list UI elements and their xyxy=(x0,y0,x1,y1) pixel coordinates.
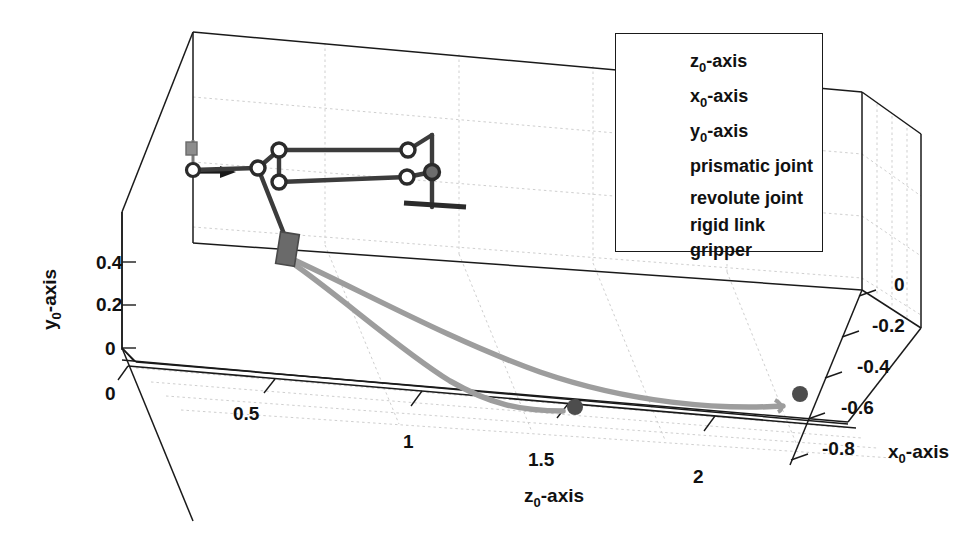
legend-item-y0-axis: y0-axis xyxy=(616,119,822,147)
legend-label-y0-axis: y0-axis xyxy=(690,122,748,144)
x-axis-title: x0-axis xyxy=(888,442,949,465)
legend-label-gripper: gripper xyxy=(690,241,752,259)
revolute-joint-d xyxy=(401,143,415,157)
legend-item-prismatic-joint: prismatic joint xyxy=(616,152,822,180)
rigid-links xyxy=(193,135,432,244)
trajectory-curve-2 xyxy=(292,259,783,407)
legend: z0-axis x0-axis y0-axis prismatic joint … xyxy=(615,33,823,252)
legend-item-z0-axis: z0-axis xyxy=(616,49,822,77)
z-tick-label-1-5: 1.5 xyxy=(528,450,554,469)
x-tick-label-neg-0-2: -0.2 xyxy=(872,316,905,335)
legend-label-rigid-link: rigid link xyxy=(690,216,765,234)
prismatic-joint xyxy=(186,142,197,155)
revolute-joint-b xyxy=(272,143,286,157)
y-tick-label-0-4: 0.4 xyxy=(96,253,122,272)
x-tick-label-neg-0-4: -0.4 xyxy=(857,357,890,376)
z-axis-title: z0-axis xyxy=(524,486,584,509)
z-tick-label-1: 1 xyxy=(403,432,414,451)
x-tick-label-0: 0 xyxy=(894,275,905,294)
trajectory-curves xyxy=(291,259,783,411)
y-tick-label-0-2: 0.2 xyxy=(96,295,122,314)
legend-item-rigid-link: rigid link xyxy=(616,211,822,239)
revolute-joint-base xyxy=(187,164,200,177)
z-tick-label-0: 0 xyxy=(105,384,116,403)
gripper xyxy=(276,232,300,267)
revolute-joint-a xyxy=(251,161,265,175)
z-tick-label-0-5: 0.5 xyxy=(233,404,259,423)
trajectory-curve-1 xyxy=(291,262,563,411)
z-tick-label-2: 2 xyxy=(693,467,704,486)
revolute-joint-e xyxy=(400,170,414,184)
legend-label-prismatic-joint: prismatic joint xyxy=(690,157,813,175)
figure-3d-manipulator-plot: z0-axis x0-axis y0-axis prismatic joint … xyxy=(0,0,960,546)
legend-item-x0-axis: x0-axis xyxy=(616,84,822,112)
z-axis-ticks xyxy=(118,366,715,431)
x-tick-label-neg-0-8: -0.8 xyxy=(822,439,855,458)
y-axis-ticks xyxy=(122,262,136,348)
target-point-2 xyxy=(792,386,808,402)
legend-label-revolute-joint: revolute joint xyxy=(690,189,803,207)
legend-label-x0-axis: x0-axis xyxy=(690,87,748,109)
legend-item-revolute-joint: revolute joint xyxy=(616,184,822,212)
legend-label-z0-axis: z0-axis xyxy=(690,52,747,74)
revolute-joint-f xyxy=(425,165,440,180)
end-effector-base xyxy=(404,203,466,207)
y-tick-label-0: 0 xyxy=(105,339,116,358)
x-tick-label-neg-0-6: -0.6 xyxy=(841,398,874,417)
legend-item-gripper: gripper xyxy=(616,236,822,264)
target-point-1 xyxy=(567,399,583,415)
revolute-joint-c xyxy=(272,175,286,189)
y-axis-title: y0-axis xyxy=(40,269,63,330)
